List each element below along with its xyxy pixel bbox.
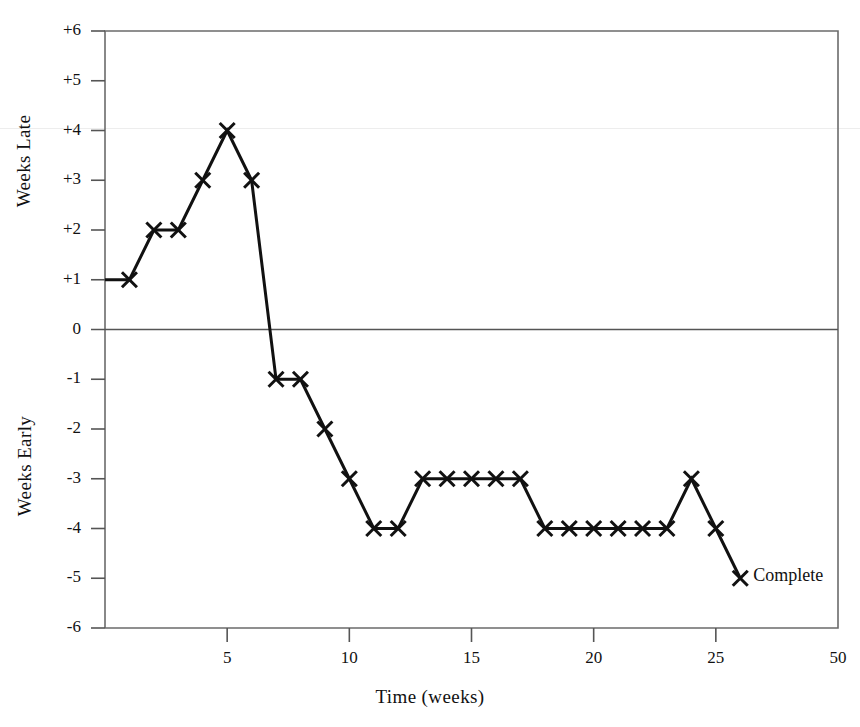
y-axis-title-lower: Weeks Early — [14, 401, 36, 531]
x-axis-ticks — [227, 628, 716, 642]
chart-container: +6+5+4+3+2+10-1-2-3-4-5-6 51015202550 We… — [0, 0, 860, 727]
y-tick-label: +1 — [37, 269, 81, 289]
y-tick-label: -1 — [37, 368, 81, 388]
x-tick-label: 10 — [329, 648, 369, 668]
x-tick-label: 15 — [452, 648, 492, 668]
x-axis-title: Time (weeks) — [0, 686, 860, 708]
data-point-marker-x — [317, 422, 332, 437]
y-tick-label: +6 — [37, 20, 81, 40]
x-tick-label: 25 — [696, 648, 736, 668]
y-tick-label: 0 — [37, 319, 81, 339]
y-axis-title-upper: Weeks Late — [13, 101, 35, 221]
y-tick-label: +2 — [37, 219, 81, 239]
data-point-marker-x — [220, 123, 235, 138]
y-tick-label: -3 — [37, 468, 81, 488]
data-series-line — [105, 131, 740, 579]
y-tick-label: +5 — [37, 70, 81, 90]
complete-annotation-label: Complete — [753, 565, 823, 586]
y-tick-label: -5 — [37, 567, 81, 587]
y-tick-label: -4 — [37, 518, 81, 538]
y-tick-label: +4 — [37, 120, 81, 140]
x-tick-label: 5 — [207, 648, 247, 668]
data-point-marker-x — [684, 471, 699, 486]
data-point-marker-x — [708, 521, 723, 536]
data-point-marker-x — [195, 173, 210, 188]
x-tick-label: 20 — [574, 648, 614, 668]
data-point-markers — [122, 123, 748, 586]
x-tick-label: 50 — [818, 648, 858, 668]
y-tick-label: -6 — [37, 617, 81, 637]
chart-plot-area — [0, 0, 860, 727]
data-point-marker-x — [733, 571, 748, 586]
y-tick-label: +3 — [37, 169, 81, 189]
y-tick-label: -2 — [37, 418, 81, 438]
data-point-marker-x — [342, 471, 357, 486]
